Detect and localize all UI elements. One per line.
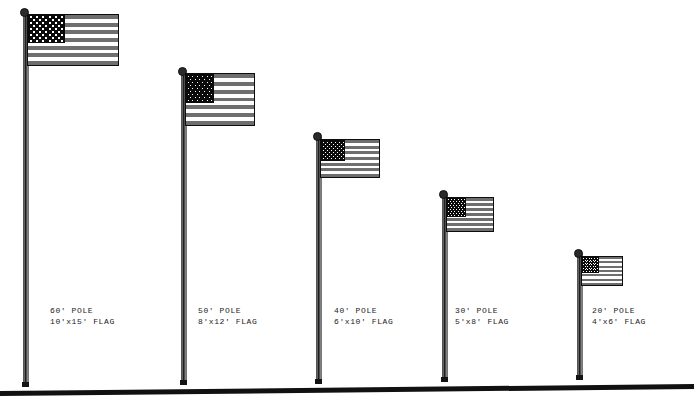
flag-star — [454, 215, 455, 216]
flag-stripe — [321, 163, 379, 166]
flag-star — [591, 258, 592, 259]
flag-star — [339, 158, 340, 159]
flag-star — [55, 28, 57, 30]
flag-stripe — [186, 109, 254, 113]
flag-stripes — [186, 74, 254, 125]
flag-star — [61, 34, 63, 36]
flag-star — [586, 258, 587, 259]
flag-star — [448, 203, 449, 204]
flag-star — [450, 207, 452, 209]
flag-star — [586, 271, 587, 272]
flag-star — [48, 30, 51, 33]
flag-star — [323, 150, 324, 151]
flag-star — [460, 212, 462, 214]
flag-star — [204, 81, 206, 84]
flag-star — [342, 156, 344, 158]
flag-star — [590, 261, 591, 263]
flag-star — [340, 145, 342, 147]
flag-star — [460, 201, 462, 203]
flag-star — [206, 84, 208, 87]
flag-star — [583, 260, 584, 262]
flag-star — [464, 211, 465, 212]
flag-star — [341, 144, 342, 145]
flag-stripes — [321, 140, 379, 177]
flag-star — [333, 144, 334, 145]
flag-star — [211, 82, 212, 83]
flag-canton — [28, 15, 65, 43]
flag-star — [32, 22, 35, 25]
flag-star — [591, 268, 592, 269]
flag-star — [337, 152, 338, 153]
flag-star — [332, 145, 334, 147]
flag-star — [30, 40, 32, 42]
flag-star — [453, 207, 455, 209]
flag-star — [589, 271, 590, 272]
flag-star — [199, 85, 200, 86]
flag-star — [594, 264, 595, 265]
pole-40ft — [316, 137, 322, 383]
flag-stripe — [28, 19, 118, 23]
flag-star — [201, 90, 203, 93]
flag-star — [585, 266, 586, 267]
flag-star — [457, 212, 459, 214]
flag-star — [33, 31, 35, 33]
flag-50ft — [185, 73, 255, 126]
flag-star — [202, 82, 203, 83]
flag-star — [341, 156, 342, 157]
flag-size-label: 10'x15' FLAG — [50, 316, 115, 327]
flag-star — [594, 260, 595, 262]
flag-stripe — [28, 53, 118, 57]
flag-star — [339, 146, 340, 147]
flag-stripe — [186, 82, 254, 86]
flag-stripe — [582, 266, 622, 268]
flag-star — [323, 146, 324, 147]
flag-star — [450, 205, 451, 206]
flag-star — [584, 261, 585, 263]
flag-star — [207, 100, 208, 101]
flag-star — [448, 215, 449, 216]
flag-star — [591, 260, 592, 262]
flag-star — [54, 19, 57, 22]
flag-canton — [447, 198, 466, 217]
flag-stripe — [186, 117, 254, 121]
flag-star — [595, 258, 596, 260]
flag-star — [340, 158, 342, 160]
flag-star — [188, 76, 189, 77]
flag-star — [586, 269, 587, 271]
flag-star — [589, 264, 590, 265]
flag-star — [209, 85, 210, 86]
flag-size-label: 4'x6' FLAG — [592, 316, 646, 327]
flag-star — [339, 154, 340, 155]
flag-star — [338, 156, 340, 158]
flag-star — [588, 269, 589, 271]
flag-star — [595, 266, 596, 267]
flag-star — [338, 147, 340, 149]
flag-star — [199, 81, 201, 84]
flag-star — [597, 260, 598, 262]
flag-star — [335, 150, 336, 151]
flag-star — [48, 36, 51, 39]
flag-star — [324, 141, 326, 143]
flag-star — [199, 99, 201, 102]
flag-star — [595, 267, 596, 269]
flag-star — [462, 199, 464, 201]
flag-star — [323, 158, 324, 159]
flag-star — [336, 145, 338, 147]
flag-star — [343, 158, 344, 159]
flag-star — [451, 207, 452, 208]
flag-star — [448, 205, 450, 207]
flag-star — [199, 97, 200, 98]
flag-star — [196, 96, 198, 99]
flag-star — [49, 40, 51, 42]
flag-star — [591, 261, 592, 262]
flag-stripes — [582, 257, 622, 285]
flag-star — [456, 209, 457, 210]
flagpole-group-40ft: 40' POLE6'x10' FLAG — [0, 0, 694, 403]
label-group-20ft: 20' POLE4'x6' FLAG — [592, 305, 646, 327]
flag-stripe — [321, 168, 379, 171]
flag-star — [340, 141, 342, 143]
flag-40ft — [320, 139, 380, 178]
pole-60ft — [23, 14, 29, 386]
flag-stripe — [28, 57, 118, 61]
flag-star — [459, 213, 460, 214]
